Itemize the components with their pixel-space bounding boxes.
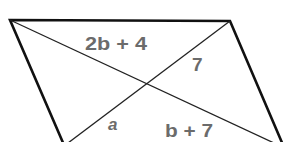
label-2b-plus-4: 2b + 4 [85, 33, 147, 54]
label-7: 7 [192, 54, 203, 75]
label-a: a [108, 115, 117, 134]
parallelogram-diagram: 2b + 4 7 a b + 7 [0, 0, 295, 142]
label-b-plus-7: b + 7 [165, 120, 213, 141]
